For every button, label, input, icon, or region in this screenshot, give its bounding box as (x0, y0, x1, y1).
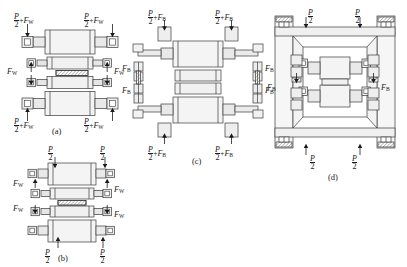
label-b-mid-left-lower: FW (13, 205, 23, 213)
label-d-left-mid: FB (267, 84, 276, 92)
label-b-top-right: P2 (100, 146, 105, 162)
label-c-bottom-right: P2+FB (215, 146, 233, 162)
panel-c-caption: (c) (192, 156, 201, 166)
label-b-top-left: P2 (48, 146, 53, 162)
label-c-bottom-left: P2+FB (148, 146, 166, 162)
panel-d-caption: (d) (328, 172, 338, 182)
label-d-bottom-left: P2 (310, 155, 315, 171)
label-b-mid-left-upper: FW (13, 180, 23, 188)
label-c-top-left: P2+FB (148, 10, 166, 26)
panel-d-drawing (275, 16, 395, 155)
label-a-top-right: P2+FW (84, 13, 104, 29)
label-a-mid-left: FW (7, 68, 17, 76)
figure-rolling-mill-load-diagrams: P2+FW P2+FW P2+FW P2+FW FW FW (a) P2 P2 … (0, 0, 407, 267)
label-b-bottom-right: P2 (100, 249, 105, 265)
panel-b-caption: (b) (58, 253, 68, 263)
panel-c-drawing (133, 20, 263, 144)
label-b-mid-right-lower: FW (114, 211, 124, 219)
label-d-bottom-right: P2 (352, 155, 357, 171)
label-c-top-right: P2+FB (215, 10, 233, 26)
label-a-bottom-left: P2+FW (14, 118, 34, 134)
label-d-top-left: P2 (308, 9, 313, 25)
panel-a-caption: (a) (52, 126, 61, 136)
label-a-top-left: P2+FW (14, 13, 34, 29)
label-c-right-upper: FB (265, 65, 274, 73)
label-b-bottom-left: P2 (45, 249, 50, 265)
label-d-right-mid: FB (381, 84, 390, 92)
label-c-left-upper: FB (122, 65, 131, 73)
label-b-mid-right-upper: FW (114, 186, 124, 194)
panel-a-drawing (22, 24, 118, 121)
panel-b-drawing (28, 157, 114, 248)
label-d-top-right: P2 (355, 9, 360, 25)
label-a-bottom-right: P2+FW (84, 118, 104, 134)
label-c-left-lower: FB (122, 87, 131, 95)
